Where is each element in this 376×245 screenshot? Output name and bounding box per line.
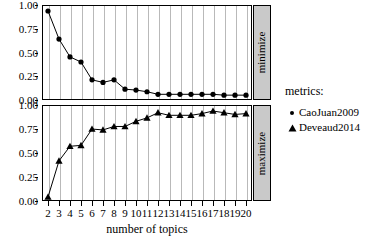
y-tick-label: 0.25: [4, 172, 38, 183]
x-tick-label: 8: [111, 207, 117, 220]
y-tick-label: 0.75: [4, 23, 38, 34]
x-tick-mark: [235, 201, 236, 206]
y-tick-label: 0.75: [4, 124, 38, 135]
plot-panel-maximize: [42, 105, 252, 201]
y-tick-mark: [35, 129, 38, 130]
strip-label-minimize: minimize: [253, 5, 271, 100]
x-tick-mark: [59, 201, 60, 206]
x-tick-label: 15: [186, 207, 197, 220]
x-tick-mark: [180, 201, 181, 206]
x-tick-mark: [202, 201, 203, 206]
x-tick-mark: [70, 201, 71, 206]
x-tick-label: 12: [153, 207, 164, 220]
data-point: [155, 92, 160, 97]
data-point: [177, 92, 182, 97]
x-tick-mark: [158, 201, 159, 206]
x-tick-label: 10: [131, 207, 142, 220]
x-tick-label: 17: [208, 207, 219, 220]
plot-panel-minimize: [42, 5, 252, 100]
y-tick-mark: [35, 201, 38, 202]
x-tick-mark: [224, 201, 225, 206]
data-point: [89, 77, 94, 82]
x-tick-label: 3: [56, 207, 62, 220]
data-point: [45, 8, 50, 13]
y-tick-label: 0.50: [4, 148, 38, 159]
x-tick-label: 19: [230, 207, 241, 220]
legend-title: metrics:: [285, 84, 376, 98]
series-layer: [43, 106, 251, 200]
data-point: [100, 80, 105, 85]
data-point: [242, 110, 249, 116]
x-tick-mark: [147, 201, 148, 206]
y-tick-label: 1.00: [4, 0, 38, 11]
series-line-Deveaud2014: [48, 111, 246, 197]
x-tick-mark: [81, 201, 82, 206]
x-tick-mark: [246, 201, 247, 206]
data-point: [78, 59, 83, 64]
y-tick-mark: [35, 53, 38, 54]
y-tick-mark: [35, 153, 38, 154]
y-tick-mark: [35, 177, 38, 178]
x-tick-mark: [169, 201, 170, 206]
chart-figure: 0.000.250.500.751.000.000.250.500.751.00…: [0, 0, 376, 245]
legend-item-Deveaud2014: Deveaud2014: [285, 120, 376, 135]
x-tick-label: 6: [89, 207, 95, 220]
data-point: [77, 142, 84, 148]
x-tick-label: 14: [175, 207, 186, 220]
y-tick-mark: [35, 105, 38, 106]
legend-label: Deveaud2014: [299, 121, 360, 134]
data-point: [232, 93, 237, 98]
x-axis-title: number of topics: [42, 222, 252, 236]
x-tick-labels: 234567891011121314151617181920: [42, 207, 252, 221]
data-point: [154, 109, 161, 115]
plot-area: [43, 106, 251, 200]
data-point: [143, 114, 150, 120]
dot: [290, 111, 294, 115]
data-point: [56, 36, 61, 41]
y-tick-label: 1.00: [4, 100, 38, 111]
data-point: [44, 193, 51, 199]
data-point: [210, 92, 215, 97]
y-tick-mark: [35, 5, 38, 6]
data-point: [209, 107, 216, 113]
series-layer: [43, 6, 251, 99]
plot-area: [43, 6, 251, 99]
y-axis-top: 0.000.250.500.751.00: [0, 5, 38, 100]
x-tick-label: 11: [142, 207, 153, 220]
x-tick-mark: [103, 201, 104, 206]
strip-label-text: maximize: [257, 131, 268, 174]
triangle-marker-icon: [285, 124, 299, 132]
x-tick-label: 20: [241, 207, 252, 220]
x-tick-label: 13: [164, 207, 175, 220]
data-point: [199, 92, 204, 97]
y-axis-bottom: 0.000.250.500.751.00: [0, 105, 38, 201]
data-point: [133, 87, 138, 92]
data-point: [188, 92, 193, 97]
data-point: [221, 93, 226, 98]
data-point: [111, 77, 116, 82]
strip-label-maximize: maximize: [253, 105, 271, 201]
data-point: [67, 54, 72, 59]
y-tick-mark: [35, 76, 38, 77]
x-tick-label: 5: [78, 207, 84, 220]
x-tick-label: 4: [67, 207, 73, 220]
data-point: [122, 87, 127, 92]
y-tick-mark: [35, 29, 38, 30]
circle-marker-icon: [285, 111, 299, 115]
data-point: [243, 93, 248, 98]
y-tick-label: 0.25: [4, 71, 38, 82]
data-point: [144, 89, 149, 94]
x-tick-label: 7: [100, 207, 106, 220]
x-tick-mark: [48, 201, 49, 206]
data-point: [166, 92, 171, 97]
x-tick-mark: [191, 201, 192, 206]
x-tick-label: 18: [219, 207, 230, 220]
legend-label: CaoJuan2009: [299, 106, 359, 119]
x-tick-mark: [136, 201, 137, 206]
x-tick-label: 2: [45, 207, 51, 220]
series-line-CaoJuan2009: [48, 11, 246, 95]
strip-label-text: minimize: [257, 32, 268, 74]
x-tick-mark: [114, 201, 115, 206]
x-tick-label: 16: [197, 207, 208, 220]
x-tick-label: 9: [122, 207, 128, 220]
